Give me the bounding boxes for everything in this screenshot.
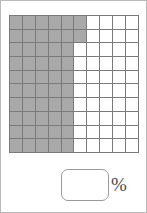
percent-grid-cell[interactable]	[35, 98, 48, 112]
percent-grid-cell[interactable]	[100, 43, 113, 57]
percent-grid-cell[interactable]	[126, 57, 139, 71]
percent-grid-cell[interactable]	[22, 43, 35, 57]
percent-grid-cell[interactable]	[61, 70, 74, 84]
percent-grid-cell[interactable]	[48, 139, 61, 153]
percent-grid-cell[interactable]	[35, 84, 48, 98]
percent-grid-cell[interactable]	[87, 16, 100, 30]
percent-grid-cell[interactable]	[35, 29, 48, 43]
percent-grid-cell[interactable]	[48, 125, 61, 139]
percent-grid-cell[interactable]	[126, 139, 139, 153]
percent-grid-cell[interactable]	[10, 98, 23, 112]
percent-grid-cell[interactable]	[10, 84, 23, 98]
percent-grid-cell[interactable]	[35, 43, 48, 57]
percent-grid-cell[interactable]	[10, 111, 23, 125]
percent-grid-cell[interactable]	[126, 70, 139, 84]
percent-grid-cell[interactable]	[48, 43, 61, 57]
percent-grid-cell[interactable]	[22, 70, 35, 84]
percent-grid-cell[interactable]	[48, 84, 61, 98]
percent-grid-cell[interactable]	[48, 70, 61, 84]
percent-grid-cell[interactable]	[10, 70, 23, 84]
percent-grid-cell[interactable]	[87, 125, 100, 139]
percent-grid-cell[interactable]	[113, 16, 126, 30]
percent-grid-cell[interactable]	[74, 57, 87, 71]
percent-grid-cell[interactable]	[22, 16, 35, 30]
percent-grid-cell[interactable]	[61, 84, 74, 98]
percent-grid-cell[interactable]	[35, 125, 48, 139]
percent-grid-cell[interactable]	[61, 111, 74, 125]
percent-grid-cell[interactable]	[113, 43, 126, 57]
percent-grid-cell[interactable]	[87, 98, 100, 112]
percent-grid-cell[interactable]	[10, 16, 23, 30]
percent-grid-cell[interactable]	[113, 98, 126, 112]
percent-grid-cell[interactable]	[22, 139, 35, 153]
percent-grid-cell[interactable]	[87, 111, 100, 125]
percent-grid-cell[interactable]	[87, 43, 100, 57]
percent-grid-cell[interactable]	[113, 139, 126, 153]
percent-grid-cell[interactable]	[10, 125, 23, 139]
percent-grid-cell[interactable]	[48, 57, 61, 71]
percent-grid-cell[interactable]	[61, 16, 74, 30]
percent-grid-cell[interactable]	[74, 29, 87, 43]
percent-grid-cell[interactable]	[87, 84, 100, 98]
percent-grid-cell[interactable]	[74, 43, 87, 57]
percent-grid-cell[interactable]	[48, 29, 61, 43]
percent-grid-cell[interactable]	[61, 139, 74, 153]
percent-grid-cell[interactable]	[113, 29, 126, 43]
percent-grid-cell[interactable]	[61, 43, 74, 57]
percent-grid-cell[interactable]	[22, 57, 35, 71]
percent-grid-cell[interactable]	[126, 111, 139, 125]
percent-grid-cell[interactable]	[61, 98, 74, 112]
percent-grid-cell[interactable]	[74, 16, 87, 30]
percent-grid-cell[interactable]	[100, 16, 113, 30]
percent-grid-cell[interactable]	[10, 29, 23, 43]
percent-grid-cell[interactable]	[22, 84, 35, 98]
percent-grid-cell[interactable]	[74, 139, 87, 153]
percent-grid-cell[interactable]	[48, 98, 61, 112]
percent-grid-cell[interactable]	[22, 98, 35, 112]
percent-grid-cell[interactable]	[74, 125, 87, 139]
percent-grid-cell[interactable]	[22, 29, 35, 43]
percent-grid-cell[interactable]	[10, 43, 23, 57]
percent-grid-cell[interactable]	[61, 125, 74, 139]
percent-grid-cell[interactable]	[22, 111, 35, 125]
percent-grid-cell[interactable]	[100, 139, 113, 153]
percent-grid-cell[interactable]	[113, 57, 126, 71]
percent-grid-cell[interactable]	[87, 29, 100, 43]
percent-grid-cell[interactable]	[126, 29, 139, 43]
percent-grid-cell[interactable]	[35, 139, 48, 153]
percent-grid[interactable]	[9, 15, 139, 153]
percent-grid-cell[interactable]	[61, 29, 74, 43]
percent-grid-cell[interactable]	[35, 57, 48, 71]
percent-grid-cell[interactable]	[100, 98, 113, 112]
percent-grid-cell[interactable]	[113, 125, 126, 139]
percent-grid-cell[interactable]	[126, 43, 139, 57]
percent-grid-cell[interactable]	[48, 111, 61, 125]
percent-grid-cell[interactable]	[74, 70, 87, 84]
percent-grid-cell[interactable]	[87, 57, 100, 71]
percent-grid-cell[interactable]	[74, 98, 87, 112]
percent-grid-cell[interactable]	[87, 139, 100, 153]
percent-grid-cell[interactable]	[22, 125, 35, 139]
percent-grid-cell[interactable]	[100, 70, 113, 84]
percent-grid-cell[interactable]	[35, 70, 48, 84]
percent-grid-cell[interactable]	[48, 16, 61, 30]
percent-grid-cell[interactable]	[74, 84, 87, 98]
percent-grid-cell[interactable]	[100, 84, 113, 98]
percent-grid-cell[interactable]	[35, 16, 48, 30]
percent-grid-cell[interactable]	[10, 57, 23, 71]
percent-grid-cell[interactable]	[100, 29, 113, 43]
percent-grid-cell[interactable]	[35, 111, 48, 125]
percent-grid-cell[interactable]	[87, 70, 100, 84]
percent-grid-cell[interactable]	[126, 16, 139, 30]
percent-grid-cell[interactable]	[126, 98, 139, 112]
percent-grid-cell[interactable]	[74, 111, 87, 125]
percent-grid-cell[interactable]	[113, 84, 126, 98]
percent-grid-cell[interactable]	[126, 84, 139, 98]
percent-grid-cell[interactable]	[100, 57, 113, 71]
percent-grid-cell[interactable]	[100, 111, 113, 125]
percent-grid-cell[interactable]	[113, 111, 126, 125]
percent-grid-cell[interactable]	[113, 70, 126, 84]
percent-answer-input[interactable]	[61, 169, 109, 201]
percent-grid-cell[interactable]	[100, 125, 113, 139]
percent-grid-cell[interactable]	[61, 57, 74, 71]
